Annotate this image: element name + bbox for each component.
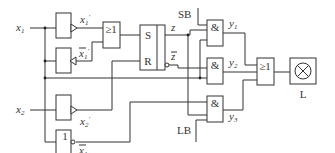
buffer-triangle-right-icon [71, 106, 77, 114]
label-lamp: L [300, 88, 307, 100]
svg-text:z: z [170, 50, 176, 62]
wire-lb [196, 120, 207, 142]
buffer-box-x1prime [56, 13, 71, 38]
and-gate-1-symbol: & [211, 21, 220, 33]
or-gate-1-symbol: ≥1 [105, 23, 117, 35]
wire-sb [198, 8, 207, 25]
label-x1prime: x1' [79, 13, 90, 27]
junction-dot [44, 27, 47, 30]
buffer-box-x1primebar [56, 48, 71, 73]
label-z: z [170, 21, 176, 33]
buffer-triangle-right-icon [71, 24, 77, 32]
junction-dot [199, 77, 202, 80]
svg-text:x1': x1' [78, 47, 89, 61]
and-gate-3-symbol: & [211, 97, 220, 109]
flipflop-r-label: R [144, 55, 152, 67]
junction-dot [187, 34, 190, 37]
junction-dot [44, 60, 47, 63]
label-y3: y3 [228, 110, 238, 124]
and-gate-2-symbol: & [211, 59, 220, 71]
label-x1: x1 [15, 21, 24, 35]
wire-x1bar-to-and3 [76, 102, 207, 142]
label-y1: y1 [228, 17, 237, 31]
wire-y3 [223, 80, 257, 110]
buffer-box-x2prime [56, 95, 71, 120]
not-gate-symbol: 1 [62, 130, 68, 142]
label-x2prime: x2' [79, 115, 90, 129]
label-y2: y2 [228, 56, 238, 70]
label-zbar: z [170, 50, 177, 62]
label-lb: LB [177, 124, 191, 136]
label-x1bar: x1 [78, 144, 87, 153]
inversion-bubble-icon [71, 140, 75, 144]
label-x1primebar: x1' [78, 47, 89, 61]
flipflop-s-label: S [145, 29, 151, 41]
label-sb: SB [178, 8, 191, 20]
label-x2: x2 [15, 103, 25, 117]
or-gate-2-symbol: ≥1 [259, 60, 271, 72]
logic-circuit-diagram: 1 ≥1 S R & & & ≥1 x1 x2 x1' x1' x2' x1 z… [0, 0, 335, 153]
junction-dot [44, 77, 47, 80]
inversion-bubble-icon [165, 63, 169, 67]
